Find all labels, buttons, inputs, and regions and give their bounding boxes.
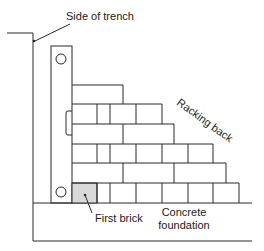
label-foundation: foundation — [158, 219, 209, 231]
label-side-of-trench: Side of trench — [66, 10, 134, 22]
first-brick — [72, 183, 97, 203]
gauge-rod — [51, 46, 72, 203]
trench-leader-dot — [33, 40, 36, 43]
brick-courses — [72, 85, 239, 203]
spirit-level-icon — [66, 111, 72, 135]
label-first-brick: First brick — [95, 212, 143, 224]
trench-side — [7, 33, 252, 241]
gauge-rod-top-hole-icon — [56, 54, 66, 64]
trench-leader-line — [35, 24, 70, 41]
label-concrete: Concrete — [162, 206, 207, 218]
label-racking-back: Racking back — [175, 96, 236, 145]
racking-back-diagram: Side of trench Racking back First brick … — [0, 0, 264, 251]
gauge-rod-bottom-hole-icon — [56, 187, 66, 197]
first-brick-leader-dot — [84, 194, 87, 197]
